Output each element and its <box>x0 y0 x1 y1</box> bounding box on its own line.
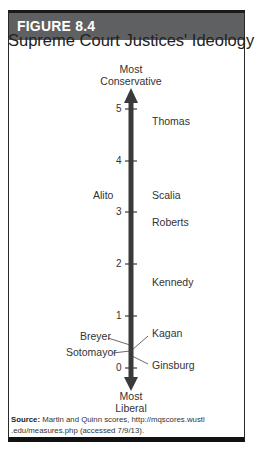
bottom-label-line1: Most <box>120 390 143 402</box>
tick-4: 4 <box>116 155 122 166</box>
justice-kagan: Kagan <box>152 327 182 339</box>
source-label: Source: <box>11 415 40 424</box>
justice-kennedy: Kennedy <box>152 276 193 288</box>
justice-scalia: Scalia <box>152 189 181 201</box>
arrow-down-icon <box>124 377 138 391</box>
arrow-up-icon <box>124 88 138 103</box>
axis-shaft <box>129 100 134 380</box>
tick-1: 1 <box>116 310 122 321</box>
justice-breyer: Breyer <box>80 330 111 342</box>
justice-roberts: Roberts <box>152 216 189 228</box>
justice-alito: Alito <box>93 189 113 201</box>
justice-sotomayor: Sotomayor <box>66 346 117 358</box>
tick-2: 2 <box>116 258 122 269</box>
tick-0: 0 <box>116 362 122 373</box>
source-text: Martin and Quinn scores, http://mqscores… <box>11 415 205 435</box>
bottom-label-line2: Liberal <box>115 402 147 414</box>
source-note: Source: Martin and Quinn scores, http://… <box>11 414 231 436</box>
justice-ginsburg: Ginsburg <box>152 359 195 371</box>
tick-5: 5 <box>116 103 122 114</box>
tick-3: 3 <box>116 206 122 217</box>
justice-thomas: Thomas <box>152 115 190 127</box>
